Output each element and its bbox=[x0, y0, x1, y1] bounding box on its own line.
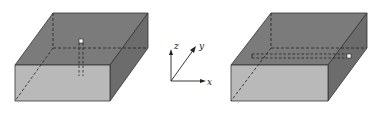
y-axis-arrowhead bbox=[190, 46, 196, 53]
right-box bbox=[231, 13, 367, 101]
z-axis-label: z bbox=[173, 41, 179, 51]
left-box-front-face bbox=[15, 65, 110, 101]
y-axis bbox=[171, 49, 194, 81]
left-channel-opening bbox=[79, 39, 83, 43]
x-axis-arrowhead bbox=[200, 79, 206, 83]
right-box-front-face bbox=[231, 65, 328, 101]
left-box bbox=[15, 13, 148, 101]
x-axis-label: x bbox=[207, 77, 212, 87]
y-axis-label: y bbox=[198, 41, 205, 51]
z-axis-arrowhead bbox=[169, 49, 173, 55]
coordinate-axes: z y x bbox=[169, 41, 212, 87]
right-channel-opening bbox=[347, 54, 351, 58]
diagram-canvas: z y x bbox=[0, 0, 375, 113]
